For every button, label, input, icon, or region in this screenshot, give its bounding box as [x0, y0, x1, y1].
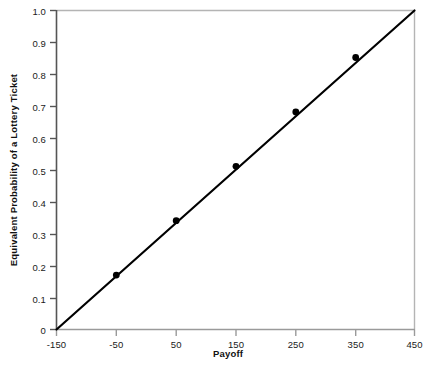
- y-tick-label-1: 1.0: [18, 5, 46, 16]
- y-tick-label-06: 0.6: [18, 133, 46, 144]
- x-tick-label-450: 450: [406, 339, 422, 350]
- x-tick-label-350: 350: [348, 339, 364, 350]
- y-tick-label-01: 0.1: [18, 293, 46, 304]
- x-tick-label-neg50: -50: [109, 339, 123, 350]
- x-tick-marks: [57, 330, 415, 336]
- data-point-marker: [292, 109, 299, 116]
- x-tick-label-50: 50: [171, 339, 182, 350]
- data-point-marker: [233, 163, 240, 170]
- data-point-marker: [113, 272, 120, 279]
- y-tick-label-03: 0.3: [18, 229, 46, 240]
- data-series-line: [57, 11, 415, 330]
- y-tick-label-0: 0: [18, 324, 46, 335]
- y-tick-label-05: 0.5: [18, 165, 46, 176]
- y-tick-label-07: 0.7: [18, 101, 46, 112]
- x-tick-label-250: 250: [288, 339, 304, 350]
- plot-canvas: [0, 0, 433, 366]
- y-tick-label-08: 0.8: [18, 69, 46, 80]
- y-tick-label-02: 0.2: [18, 261, 46, 272]
- y-tick-label-09: 0.9: [18, 37, 46, 48]
- data-point-marker: [173, 217, 180, 224]
- y-tick-label-04: 0.4: [18, 197, 46, 208]
- data-point-markers: [113, 54, 359, 278]
- y-tick-marks: [50, 11, 56, 330]
- data-point-marker: [352, 54, 359, 61]
- y-axis-title: Equivalent Probability of a Lottery Tick…: [8, 74, 19, 266]
- x-tick-label-neg150: -150: [47, 339, 66, 350]
- chart-figure: 1.0 0.9 0.8 0.7 0.6 0.5 0.4 0.3 0.2 0.1 …: [0, 0, 433, 366]
- x-axis-title: Payoff: [213, 348, 243, 359]
